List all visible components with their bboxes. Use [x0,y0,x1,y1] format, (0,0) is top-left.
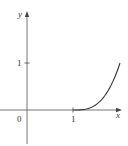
curve-line [74,63,121,110]
origin-label: 0 [17,114,22,124]
y-axis-label: y [17,9,22,19]
y-tick-label-1: 1 [17,58,22,68]
chart: y x 0 1 1 [0,0,128,146]
x-tick-label-1: 1 [71,114,76,124]
x-axis-label: x [115,110,120,120]
y-axis-arrow-icon [25,11,29,17]
